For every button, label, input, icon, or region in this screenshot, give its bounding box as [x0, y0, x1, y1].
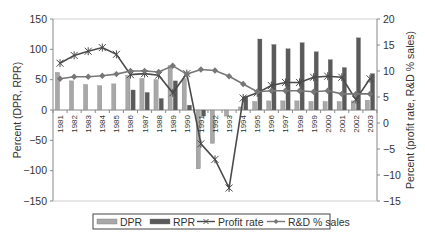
x-tick-label: 1985	[112, 114, 121, 132]
x-tick-label: 1988	[155, 114, 164, 132]
x-tick-label: 2000	[324, 114, 333, 132]
marker-diamond	[198, 66, 204, 72]
bar-dpr	[112, 84, 116, 110]
y-tick-label-right: 5	[383, 91, 389, 103]
y-tick-label-right: −5	[383, 143, 395, 155]
bar-rpr	[258, 39, 262, 110]
x-tick-label: 1983	[84, 114, 93, 132]
x-tick-label: 2002	[352, 114, 361, 132]
marker-diamond	[212, 67, 218, 73]
bar-rpr	[342, 68, 346, 110]
legend-label: R&D % sales	[288, 216, 350, 228]
x-tick-label: 1995	[253, 114, 262, 132]
legend-swatch-rpr	[150, 219, 170, 224]
bar-dpr	[84, 85, 88, 110]
x-tick-label: 1981	[56, 114, 65, 132]
y-tick-label-left: 150	[29, 13, 47, 25]
y-axis-label-right: Percent (profit rate, R&D % sales)	[404, 31, 416, 189]
x-tick-label: 1984	[98, 114, 107, 132]
y-tick-label-right: 0	[383, 117, 389, 129]
bar-dpr	[323, 102, 327, 110]
marker-diamond	[99, 72, 105, 78]
bar-dpr	[309, 102, 313, 110]
y-tick-label-right: 20	[383, 13, 395, 25]
marker-diamond	[71, 74, 77, 80]
bar-rpr	[370, 74, 374, 110]
x-tick-label: 1997	[281, 114, 290, 132]
marker-diamond	[113, 71, 119, 77]
y-tick-label-right: −10	[383, 169, 401, 181]
bar-rpr	[328, 60, 332, 110]
bar-rpr	[131, 90, 135, 110]
marker-diamond	[85, 74, 91, 80]
bar-dpr	[98, 86, 102, 110]
x-tick-label: 1986	[126, 114, 135, 132]
bar-dpr	[126, 75, 130, 110]
y-tick-label-right: −15	[383, 195, 401, 207]
bar-dpr	[140, 78, 144, 110]
y-tick-label-left: −100	[23, 164, 47, 176]
bar-dpr	[281, 101, 285, 110]
y-axis-label-left: Percent (DPR, RPR)	[11, 62, 23, 158]
y-tick-label-left: 100	[29, 43, 47, 55]
marker-asterisk	[113, 50, 120, 58]
x-tick-label: 1982	[70, 114, 79, 132]
bar-dpr	[253, 102, 257, 110]
y-tick-label-left: 50	[35, 73, 47, 85]
marker-diamond	[226, 73, 232, 79]
legend-label: RPR	[173, 216, 196, 228]
x-tick-label: 1987	[141, 114, 150, 132]
chart-container: 150100500−50−100−15020151050−5−10−151981…	[0, 0, 425, 247]
marker-asterisk	[226, 184, 233, 192]
bar-dpr	[182, 78, 186, 110]
marker-asterisk	[212, 155, 219, 163]
bar-dpr	[295, 101, 299, 110]
bar-rpr	[300, 43, 304, 110]
x-tick-label: 1996	[267, 114, 276, 132]
y-tick-label-left: 0	[41, 104, 47, 116]
bar-rpr	[187, 105, 191, 110]
x-tick-label: 2003	[366, 114, 375, 132]
bar-rpr	[272, 44, 276, 110]
bar-dpr	[337, 102, 341, 110]
x-tick-label: 2001	[338, 114, 347, 132]
marker-diamond	[127, 68, 133, 74]
y-tick-label-left: −150	[23, 195, 47, 207]
bar-dpr	[154, 80, 158, 110]
x-tick-label: 1992	[211, 114, 220, 132]
x-tick-label: 1993	[225, 114, 234, 132]
legend-swatch-dpr	[97, 219, 117, 224]
plot-area: 150100500−50−100−15020151050−5−10−151981…	[23, 13, 401, 230]
bar-rpr	[314, 52, 318, 110]
bar-rpr	[145, 92, 149, 110]
bar-rpr	[159, 98, 163, 110]
marker-asterisk	[57, 59, 64, 67]
y-tick-label-right: 10	[383, 65, 395, 77]
x-tick-label: 1989	[169, 114, 178, 132]
legend-label: DPR	[120, 216, 143, 228]
x-tick-label: 1990	[183, 114, 192, 132]
legend-label: Profit rate	[218, 216, 264, 228]
bar-dpr	[267, 101, 271, 110]
y-tick-label-right: 15	[383, 39, 395, 51]
marker-diamond	[240, 81, 246, 87]
x-tick-label: 1999	[310, 114, 319, 132]
bar-dpr	[365, 100, 369, 110]
bar-dpr	[69, 81, 73, 110]
y-tick-label-left: −50	[29, 134, 47, 146]
combo-chart: 150100500−50−100−15020151050−5−10−151981…	[0, 0, 425, 247]
legend: DPRRPRProfit rateR&D % sales	[93, 214, 350, 229]
x-tick-label: 1998	[296, 114, 305, 132]
